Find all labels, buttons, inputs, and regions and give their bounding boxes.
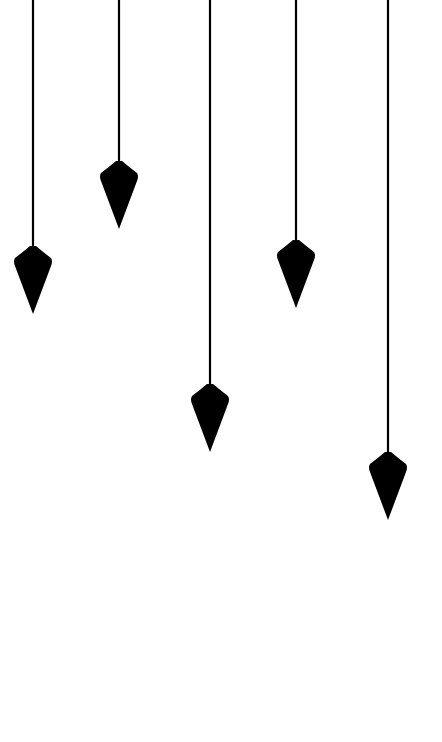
pendulum-5 — [369, 0, 407, 520]
hanging-pendulums-scene — [0, 0, 442, 742]
pendulum-3 — [191, 0, 229, 452]
pendulum-1 — [14, 0, 52, 314]
pendulum-4 — [277, 0, 315, 308]
pendulum-bob-icon — [369, 452, 407, 520]
pendulum-bob-icon — [100, 161, 138, 229]
pendulums-illustration — [0, 0, 442, 742]
pendulum-bob-icon — [277, 240, 315, 308]
pendulum-2 — [100, 0, 138, 229]
pendulum-bob-icon — [14, 246, 52, 314]
pendulum-bob-icon — [191, 384, 229, 452]
